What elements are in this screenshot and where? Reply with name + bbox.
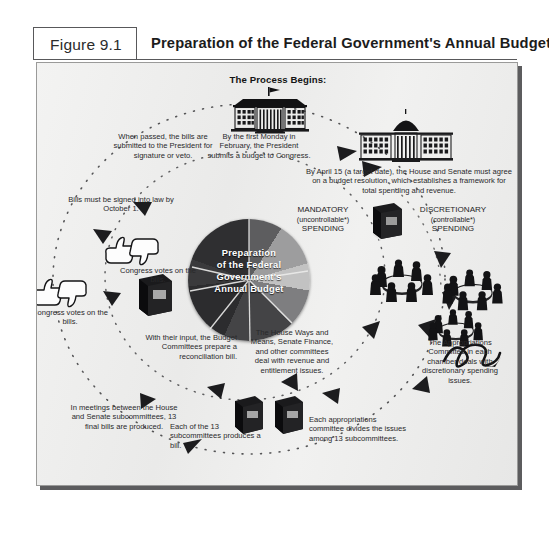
arrowhead-left-mid <box>103 291 121 306</box>
thumbs-icon-upper <box>103 235 161 269</box>
committee-table-icon-left <box>367 259 437 305</box>
arrowhead-top-left <box>337 146 357 161</box>
pie-label-line-3: Government's <box>182 271 316 283</box>
figure-panel: The Process Begins: <box>36 62 518 486</box>
step-submitted-to-president-caption: When passed, the bills are submitted to … <box>111 132 215 160</box>
step-subcommittee-bill-caption: Each of the 13 subcommittees produces a … <box>170 422 266 450</box>
central-pie-chart: Preparation of the Federal Government's … <box>188 219 310 341</box>
committee-table-icon-right <box>439 269 507 313</box>
discretionary-line-3: SPENDING <box>409 224 497 234</box>
step-congress-votes-2-caption: Congress votes on the bills. <box>36 308 111 327</box>
budget-book-icon-2 <box>269 393 309 439</box>
figure-number-box: Figure 9.1 <box>33 27 137 60</box>
step-reconciliation-caption: With their input, the Budget Committees … <box>145 333 237 361</box>
arrowhead-bottom-mid <box>281 373 298 391</box>
figure-header: Figure 9.1 Preparation of the Federal Go… <box>33 27 517 60</box>
figure-title: Preparation of the Federal Government's … <box>151 27 517 60</box>
figure-number: Figure 9.1 <box>34 28 138 61</box>
step-appropriations-committee-caption: The Appropriations Committee in each cha… <box>415 338 505 385</box>
mandatory-line-1: MANDATORY <box>284 205 362 215</box>
pie-label-line-2: of the Federal <box>182 259 316 271</box>
discretionary-line-2: (controllable*) <box>409 215 497 225</box>
arrowhead-center-left <box>207 383 225 399</box>
step-signed-into-law-caption: Bills must be signed into law by October… <box>67 195 175 214</box>
pie-label-line-1: Preparation <box>182 247 316 259</box>
step-president-budget-caption: By the first Monday in February, the Pre… <box>207 132 311 160</box>
step-budget-resolution-caption: By April 15 (a target date), the House a… <box>304 167 514 195</box>
arrowhead-bottom-center <box>322 388 340 404</box>
pie-label-line-4: Annual Budget <box>182 283 316 295</box>
step-conference-meetings-caption: In meetings between the House and Senate… <box>69 403 179 431</box>
arrowhead-right-inner <box>362 321 380 339</box>
thumbs-icon-lower <box>36 277 89 311</box>
step-congress-votes-1-caption: Congress votes on the bills. <box>117 266 199 285</box>
discretionary-line-1: DISCRETIONARY <box>409 205 497 215</box>
capitol-icon <box>359 109 453 165</box>
pie-center-label: Preparation of the Federal Government's … <box>182 247 316 295</box>
step-ways-and-means-caption: The House Ways and Means, Senate Finance… <box>249 328 335 375</box>
step-appropriations-divides-caption: Each appropriations committee divides th… <box>309 415 409 443</box>
discretionary-spending-label: DISCRETIONARY (controllable*) SPENDING <box>409 205 497 234</box>
budget-resolution-book-icon <box>367 201 407 243</box>
